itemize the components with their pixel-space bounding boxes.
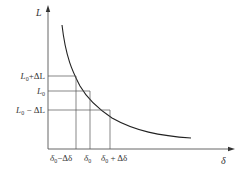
x-axis-arrow-icon	[228, 147, 235, 151]
y-tick-l0-plus: L0+ΔL	[20, 71, 45, 82]
x-tick-d0-minus: δ0−Δδ	[50, 153, 72, 164]
y-tick-l0: L0	[36, 86, 45, 97]
diagram-canvas: L δ L0+ΔL L0 L0 − ΔL δ0−Δδ δ0 δ0 + Δδ	[0, 0, 241, 174]
y-axis-arrow-icon	[46, 5, 50, 12]
x-axis-label: δ	[221, 155, 226, 166]
y-axis-label: L	[35, 7, 42, 18]
y-tick-l0-minus: L0 − ΔL	[15, 105, 45, 116]
x-tick-d0-plus: δ0 + Δδ	[101, 153, 127, 164]
x-tick-d0: δ0	[84, 153, 91, 164]
l-delta-curve	[62, 25, 191, 138]
